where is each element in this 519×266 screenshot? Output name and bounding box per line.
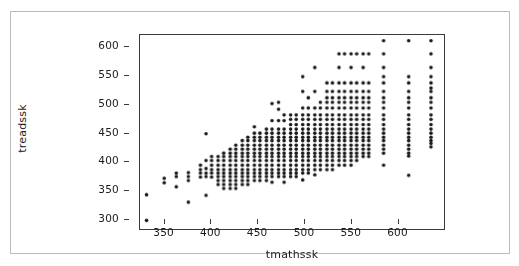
x-tick-label: 600 <box>378 226 418 238</box>
x-tick-mark <box>351 219 352 224</box>
y-tick-label: 450 <box>87 126 119 138</box>
y-tick-mark <box>124 133 129 134</box>
y-tick-label: 300 <box>87 212 119 224</box>
x-tick-mark <box>210 219 211 224</box>
x-tick-mark <box>398 219 399 224</box>
y-tick-mark <box>124 190 129 191</box>
y-tick-label: 350 <box>87 183 119 195</box>
plot-axes-box <box>139 34 445 230</box>
y-tick-label: 550 <box>87 68 119 80</box>
y-tick-label: 400 <box>87 154 119 166</box>
screenshot-page: 300350400450500550600 350400450500550600… <box>0 0 519 266</box>
x-tick-label: 400 <box>190 226 230 238</box>
y-tick-mark <box>124 104 129 105</box>
x-tick-mark <box>257 219 258 224</box>
x-tick-mark <box>164 219 165 224</box>
y-tick-mark <box>124 75 129 76</box>
x-tick-label: 350 <box>144 226 184 238</box>
x-tick-mark <box>304 219 305 224</box>
y-axis-label: treadssk <box>16 104 29 153</box>
y-tick-label: 600 <box>87 39 119 51</box>
x-tick-label: 450 <box>237 226 277 238</box>
y-tick-mark <box>124 219 129 220</box>
x-tick-label: 500 <box>284 226 324 238</box>
y-tick-mark <box>124 161 129 162</box>
x-tick-label: 550 <box>331 226 371 238</box>
y-tick-label: 500 <box>87 97 119 109</box>
scatter-plot-canvas <box>140 35 444 229</box>
figure-frame: 300350400450500550600 350400450500550600… <box>10 11 510 254</box>
x-axis-label: tmathssk <box>139 248 445 261</box>
y-tick-mark <box>124 46 129 47</box>
